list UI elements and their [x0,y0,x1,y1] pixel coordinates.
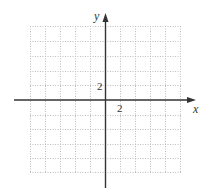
y-axis-label: y [93,9,100,23]
coordinate-plane: y x 2 2 [0,0,202,193]
x-axis-label: x [192,102,199,116]
y-axis-arrow-icon [103,13,109,22]
y-tick-label: 2 [97,80,103,92]
x-tick-label: 2 [117,102,123,114]
